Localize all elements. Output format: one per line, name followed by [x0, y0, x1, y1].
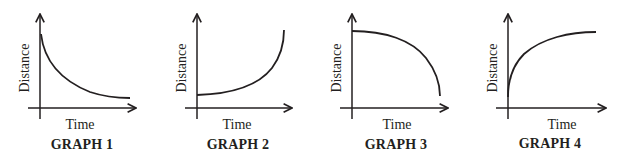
- graph-4-curve: [508, 32, 596, 97]
- graph-2-curve: [197, 30, 284, 95]
- graph-3-x-label: Time: [382, 117, 411, 133]
- graph-1-x-label: Time: [65, 117, 94, 133]
- graph-2-y-label: Distance: [174, 44, 190, 93]
- graph-3-y-label: Distance: [329, 44, 345, 93]
- graph-1-title: GRAPH 1: [51, 137, 113, 153]
- graph-4-title: GRAPH 4: [519, 136, 581, 152]
- graph-1: [28, 14, 136, 119]
- graph-1-curve: [41, 34, 130, 98]
- graph-4-x-label: Time: [547, 117, 576, 133]
- graph-4-y-label: Distance: [485, 44, 501, 93]
- graph-3: [340, 14, 448, 119]
- graph-4: [496, 14, 606, 119]
- graph-1-y-label: Distance: [17, 44, 33, 93]
- graph-3-title: GRAPH 3: [365, 137, 427, 153]
- graph-2: [185, 14, 292, 119]
- graph-2-x-label: Time: [222, 117, 251, 133]
- graph-3-curve: [352, 31, 440, 96]
- graph-2-title: GRAPH 2: [207, 137, 269, 153]
